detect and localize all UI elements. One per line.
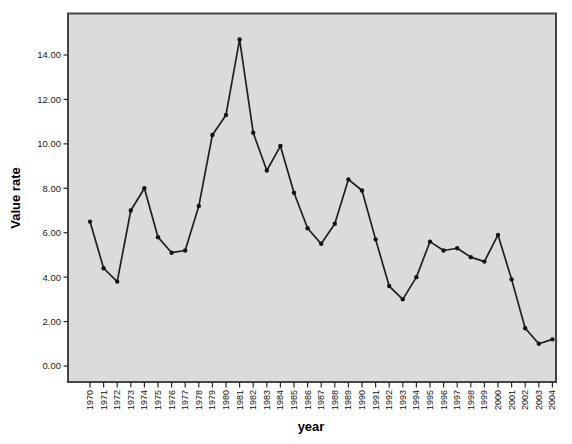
x-tick-label: 1994 — [411, 390, 421, 410]
x-tick-label: 1988 — [330, 390, 340, 410]
x-tick-label: 1998 — [466, 390, 476, 410]
data-point — [346, 177, 350, 181]
data-point — [88, 219, 92, 223]
y-tick-label: 14.00 — [37, 49, 61, 60]
y-axis-title: Value rate — [8, 167, 23, 228]
data-point — [292, 191, 296, 195]
x-tick-label: 1973 — [126, 390, 136, 410]
x-tick-label: 1978 — [194, 390, 204, 410]
x-tick-label: 1991 — [371, 390, 381, 410]
data-point — [156, 235, 160, 239]
x-tick-label: 1982 — [248, 390, 258, 410]
x-tick-label: 2003 — [534, 390, 544, 410]
data-point — [373, 237, 377, 241]
data-point — [224, 113, 228, 117]
x-tick-label: 1992 — [384, 390, 394, 410]
data-point — [210, 133, 214, 137]
data-point — [401, 297, 405, 301]
data-point — [523, 326, 527, 330]
data-point — [278, 144, 282, 148]
x-tick-label: 1971 — [99, 390, 109, 410]
x-tick-label: 1997 — [452, 390, 462, 410]
data-point — [183, 248, 187, 252]
chart-figure: ' 0.002.004.006.008.0010.0012.0014.00 19… — [0, 0, 572, 444]
x-tick-label: 1999 — [479, 390, 489, 410]
y-tick-label: 0.00 — [43, 360, 62, 371]
x-tick-label: 2004 — [547, 390, 557, 410]
x-tick-label: 1993 — [398, 390, 408, 410]
y-tick-label: 4.00 — [43, 272, 62, 283]
plot-area — [68, 14, 556, 383]
stray-mark: ' — [27, 0, 29, 7]
x-tick-label: 1981 — [235, 390, 245, 410]
y-tick-label: 2.00 — [43, 316, 62, 327]
data-point — [509, 277, 513, 281]
x-tick-label: 1976 — [167, 390, 177, 410]
data-point — [455, 246, 459, 250]
data-point — [333, 222, 337, 226]
data-point — [537, 342, 541, 346]
data-point — [319, 242, 323, 246]
data-point — [550, 337, 554, 341]
data-point — [251, 131, 255, 135]
x-axis-title: year — [298, 419, 325, 434]
line-chart: 0.002.004.006.008.0010.0012.0014.00 1970… — [0, 0, 572, 444]
x-tick-label: 1984 — [275, 390, 285, 410]
y-tick-label: 12.00 — [37, 94, 61, 105]
data-point — [360, 188, 364, 192]
y-tick-label: 6.00 — [43, 227, 62, 238]
x-tick-label: 1975 — [153, 390, 163, 410]
x-tick-label: 1979 — [207, 390, 217, 410]
x-tick-label: 1972 — [112, 390, 122, 410]
data-point — [169, 251, 173, 255]
data-point — [142, 186, 146, 190]
x-tick-label: 2000 — [493, 390, 503, 410]
data-point — [387, 284, 391, 288]
x-tick-label: 1995 — [425, 390, 435, 410]
x-tick-label: 1986 — [303, 390, 313, 410]
data-point — [469, 255, 473, 259]
data-point — [482, 259, 486, 263]
data-point — [496, 233, 500, 237]
data-point — [237, 37, 241, 41]
data-point — [428, 239, 432, 243]
x-tick-label: 1990 — [357, 390, 367, 410]
data-point — [305, 226, 309, 230]
data-point — [414, 275, 418, 279]
x-tick-label: 1977 — [180, 390, 190, 410]
y-tick-label: 8.00 — [43, 183, 62, 194]
x-tick-label: 1985 — [289, 390, 299, 410]
x-tick-label: 1987 — [316, 390, 326, 410]
x-tick-label: 1974 — [139, 390, 149, 410]
x-tick-label: 1989 — [343, 390, 353, 410]
data-point — [129, 208, 133, 212]
x-tick-label: 1983 — [262, 390, 272, 410]
y-axis-ticks: 0.002.004.006.008.0010.0012.0014.00 — [37, 49, 68, 371]
data-point — [197, 204, 201, 208]
x-axis-ticks: 1970197119721973197419751976197719781979… — [85, 382, 557, 410]
data-point — [265, 168, 269, 172]
y-tick-label: 10.00 — [37, 138, 61, 149]
data-point — [101, 266, 105, 270]
x-tick-label: 2002 — [520, 390, 530, 410]
data-point — [441, 248, 445, 252]
x-tick-label: 2001 — [507, 390, 517, 410]
x-tick-label: 1980 — [221, 390, 231, 410]
x-tick-label: 1970 — [85, 390, 95, 410]
x-tick-label: 1996 — [439, 390, 449, 410]
data-point — [115, 279, 119, 283]
